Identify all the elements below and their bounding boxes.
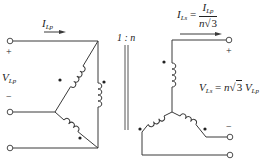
primary-voltage-symbol: V [2,71,9,83]
secondary-arrowhead-icon [215,32,222,36]
primary-current-sub: Lp [46,23,53,31]
sqrt-sign: √ [205,17,211,29]
primary-terminal-3 [7,145,13,151]
primary-current-label: ILp [42,18,53,31]
primary-arm-b-lower [78,132,98,148]
primary-arm-b-upper [55,112,64,120]
polarity-dot-primary-c [102,80,105,83]
primary-arm-a-upper [83,41,98,66]
secondary-terminal-2 [227,134,233,140]
primary-arm-a-lower [55,87,71,112]
primary-arrowhead-icon [59,30,66,34]
polarity-dot-primary-b [78,136,81,139]
polarity-dot-primary-a [58,78,61,81]
secondary-arm-right-a [172,112,180,116]
secondary-arm-right-b [196,125,206,138]
voltage-rhs-sub: Lp [252,87,259,95]
primary-coil-b [64,117,80,131]
equals-sign: = [190,8,196,20]
primary-terminal-1 [7,38,13,44]
primary-minus-sign: − [6,92,12,102]
primary-voltage-sub: Lp [9,77,16,85]
primary-plus-sign: + [6,47,12,57]
fraction-numerator-sub: Lp [206,7,213,15]
transformer-diagram: ILp + VLp − 1 : n ILs = ILp n√3 + VLs = … [0,0,265,163]
secondary-terminal-1 [226,37,232,43]
secondary-current-sub: Ls [181,14,188,22]
secondary-arm-left-b [142,125,148,133]
secondary-voltage-sub: Ls [206,87,213,95]
secondary-minus-sign: − [226,122,232,132]
secondary-current-equation: ILs = ILp n√3 [177,2,217,29]
secondary-arm-left-a [164,112,172,116]
secondary-plus-sign: + [226,46,232,56]
polarity-dot-secondary-a [162,60,165,63]
secondary-terminal-3 [227,152,233,158]
secondary-voltage-symbol: V [199,81,206,93]
voltage-sqrt-sign: √ [230,81,236,93]
sqrt-argument: 3 [211,16,218,29]
polarity-dot-secondary-b [138,127,141,130]
voltage-sqrt-argument: 3 [236,80,243,93]
primary-terminal-2 [7,109,13,115]
secondary-coil-b [148,116,166,128]
secondary-voltage-equation: VLs = n√3 VLp [199,82,259,95]
current-fraction: ILp n√3 [199,2,217,29]
primary-coil-c [98,83,102,107]
polarity-dot-secondary-c [203,127,206,130]
secondary-coil-a [172,63,176,87]
voltage-equals-sign: = [215,81,221,93]
turns-ratio-label: 1 : n [117,33,135,43]
secondary-coil-c [180,113,198,125]
voltage-rhs-symbol: V [245,81,252,93]
primary-voltage-label: VLp [2,72,16,85]
primary-coil-a [71,66,87,89]
